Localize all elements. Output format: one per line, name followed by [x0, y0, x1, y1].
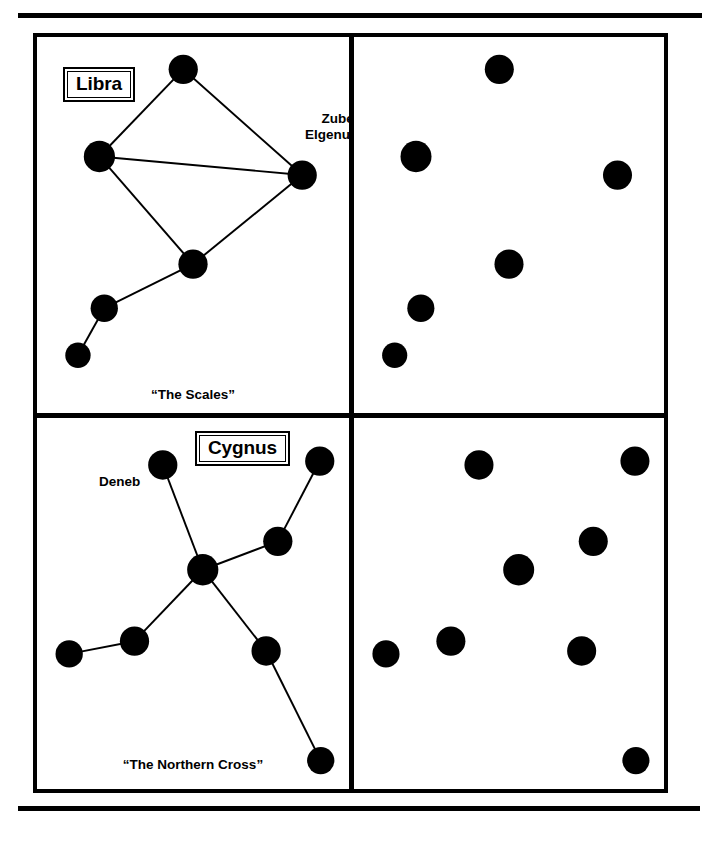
- panel-caption-libra: “The Scales”: [37, 387, 349, 402]
- star-dot[interactable]: [56, 640, 83, 667]
- star-dot[interactable]: [169, 55, 198, 84]
- star-dot[interactable]: [120, 627, 149, 656]
- constellation-line: [99, 156, 302, 175]
- sky-cygnus-plain: [354, 418, 664, 789]
- star-dot[interactable]: [288, 160, 317, 189]
- star-dot[interactable]: [382, 343, 407, 368]
- star-dot[interactable]: [407, 295, 434, 322]
- star-dot[interactable]: [494, 249, 523, 278]
- constellation-line: [193, 175, 302, 264]
- star-dot[interactable]: [622, 747, 649, 774]
- sky-libra-plain: [354, 37, 664, 413]
- star-dot[interactable]: [603, 160, 632, 189]
- top-rule: [18, 13, 702, 18]
- constellation-line: [104, 264, 193, 308]
- constellation-line: [99, 156, 193, 264]
- panel-libra-plain[interactable]: [350, 33, 668, 417]
- star-label-deneb: Deneb: [99, 474, 140, 490]
- panel-caption-cygnus: “The Northern Cross”: [37, 757, 349, 772]
- star-dot[interactable]: [620, 446, 649, 475]
- sky-cygnus-connected: [37, 418, 349, 789]
- star-dot[interactable]: [65, 343, 90, 368]
- star-dot[interactable]: [567, 636, 596, 665]
- star-dot[interactable]: [148, 450, 177, 479]
- star-dot[interactable]: [436, 627, 465, 656]
- constellation-figure: Libra Zuben Elgenubi “The Scales” Cygnus…: [0, 0, 702, 841]
- star-label-zuben-elgenubi: Zuben Elgenubi: [267, 111, 353, 143]
- panel-cygnus-connected[interactable]: Cygnus Deneb “The Northern Cross”: [33, 414, 353, 793]
- star-dot[interactable]: [84, 141, 115, 172]
- star-dot[interactable]: [178, 249, 207, 278]
- constellation-line: [266, 651, 321, 761]
- constellation-name-cygnus: Cygnus: [199, 435, 286, 462]
- star-dot[interactable]: [263, 527, 292, 556]
- constellation-name-box-libra: Libra: [63, 67, 135, 102]
- constellation-name-libra: Libra: [67, 71, 131, 98]
- panel-cygnus-plain[interactable]: [350, 414, 668, 793]
- constellation-name-box-cygnus: Cygnus: [195, 431, 290, 466]
- star-dot[interactable]: [503, 554, 534, 585]
- star-dot[interactable]: [464, 450, 493, 479]
- star-dot[interactable]: [252, 636, 281, 665]
- star-dot[interactable]: [372, 640, 399, 667]
- bottom-rule: [18, 806, 700, 811]
- star-dot[interactable]: [579, 527, 608, 556]
- star-dot[interactable]: [485, 55, 514, 84]
- star-dot[interactable]: [187, 554, 218, 585]
- star-dot[interactable]: [91, 295, 118, 322]
- panel-libra-connected[interactable]: Libra Zuben Elgenubi “The Scales”: [33, 33, 353, 417]
- star-dot[interactable]: [401, 141, 432, 172]
- panel-grid: Libra Zuben Elgenubi “The Scales” Cygnus…: [33, 33, 668, 793]
- star-dot[interactable]: [305, 446, 334, 475]
- constellation-line: [163, 465, 203, 570]
